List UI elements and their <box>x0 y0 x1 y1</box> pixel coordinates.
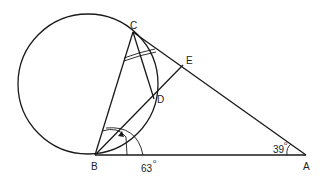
segment-BC <box>95 32 133 155</box>
angle-B-value: 63 <box>141 163 153 174</box>
label-B: B <box>91 161 98 172</box>
geometry-diagram: C E D B A 63 o 39 o <box>0 0 323 184</box>
segment-BE <box>95 65 183 155</box>
angle-B-degree: o <box>153 158 157 164</box>
angle-A-value: 39 <box>273 144 285 155</box>
angle-B-arc-63 <box>106 128 143 155</box>
angle-A-arc <box>287 144 291 155</box>
diagram-svg: C E D B A 63 o 39 o <box>0 0 323 184</box>
label-E: E <box>186 55 193 66</box>
label-D: D <box>157 94 164 105</box>
label-A: A <box>303 161 310 172</box>
label-C: C <box>130 20 137 31</box>
angle-A-degree: o <box>284 140 288 146</box>
